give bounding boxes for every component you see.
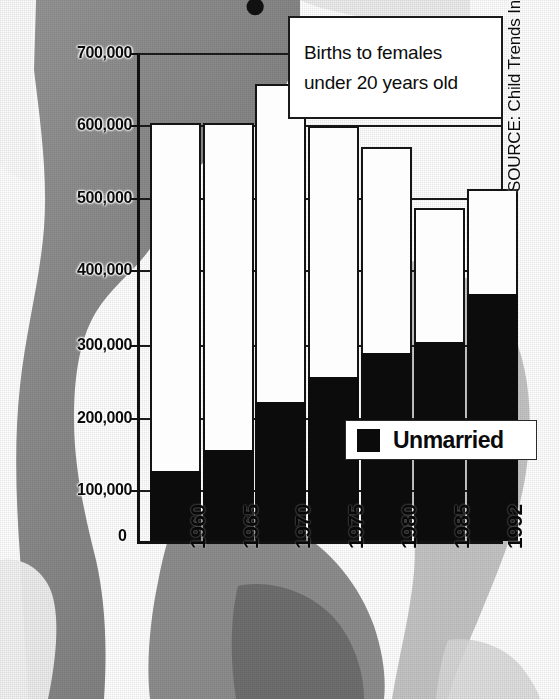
bar-1960[interactable] — [150, 123, 201, 541]
y-tick-mark — [131, 270, 140, 272]
y-tick-mark — [131, 125, 140, 127]
y-tick-mark — [131, 418, 140, 420]
y-tick-mark — [131, 198, 140, 200]
y-tick-label: 200,000 — [77, 409, 132, 427]
y-tick-mark — [131, 490, 140, 492]
y-tick-label: 700,000 — [77, 44, 132, 62]
bar-1970[interactable] — [255, 84, 306, 541]
legend-label-unmarried: Unmarried — [393, 427, 504, 454]
bar-1992[interactable] — [467, 189, 518, 541]
cropped-title-glyph: ● — [243, 0, 267, 27]
x-tick-label-1985: 1985 — [450, 504, 474, 549]
y-tick-label-zero: 0 — [118, 527, 127, 545]
y-tick-mark — [131, 53, 140, 55]
y-tick-label: 100,000 — [77, 481, 132, 499]
x-tick-label-1960: 1960 — [186, 504, 210, 549]
y-tick-label: 500,000 — [77, 189, 132, 207]
y-tick-label: 400,000 — [77, 261, 132, 279]
plot-area — [137, 53, 503, 544]
bar-1965[interactable] — [203, 123, 254, 541]
x-tick-label-1980: 1980 — [397, 504, 421, 549]
y-tick-mark — [131, 345, 140, 347]
y-tick-label: 300,000 — [77, 336, 132, 354]
stacked-bar-chart: ● 700,000 600,000 500,000 400,000 300,00… — [0, 0, 559, 699]
x-tick-label-1970: 1970 — [291, 504, 315, 549]
y-tick-label: 600,000 — [77, 116, 132, 134]
y-axis-labels: 700,000 600,000 500,000 400,000 300,000 … — [0, 53, 132, 541]
bar-1985[interactable] — [414, 208, 465, 541]
bar-1980[interactable] — [361, 147, 412, 541]
x-tick-label-1992: 1992 — [503, 504, 527, 549]
callout-line-1: Births to females — [304, 38, 489, 67]
source-note: SOURCE: Child Trends Inc. — [505, 0, 525, 192]
x-tick-label-1975: 1975 — [344, 504, 368, 549]
chart-legend: Unmarried — [345, 420, 537, 460]
x-tick-label-1965: 1965 — [239, 504, 263, 549]
bar-1975[interactable] — [308, 126, 359, 541]
chart-title-callout: Births to females under 20 years old — [288, 16, 503, 119]
legend-swatch-unmarried — [357, 429, 380, 452]
callout-line-2: under 20 years old — [304, 68, 489, 97]
